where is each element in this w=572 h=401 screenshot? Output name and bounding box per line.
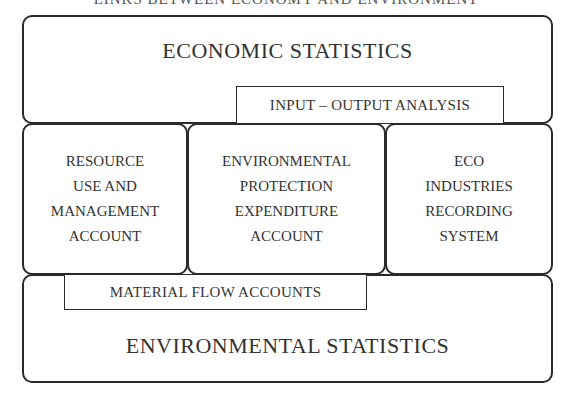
resource-use-account-box: RESOURCE USE AND MANAGEMENT ACCOUNT	[22, 123, 188, 275]
resource-use-account-label: RESOURCE USE AND MANAGEMENT ACCOUNT	[51, 149, 159, 249]
input-output-analysis-box: INPUT – OUTPUT ANALYSIS	[236, 86, 504, 124]
diagram-title-cropped: LINKS BETWEEN ECONOMY AND ENVIRONMENT	[0, 0, 572, 8]
eco-industries-recording-label: ECO INDUSTRIES RECORDING SYSTEM	[425, 149, 513, 249]
economic-statistics-label: ECONOMIC STATISTICS	[24, 33, 551, 69]
environmental-protection-expenditure-box: ENVIRONMENTAL PROTECTION EXPENDITURE ACC…	[187, 123, 386, 275]
material-flow-accounts-box: MATERIAL FLOW ACCOUNTS	[64, 274, 367, 310]
eco-industries-recording-box: ECO INDUSTRIES RECORDING SYSTEM	[385, 123, 553, 275]
environmental-protection-expenditure-label: ENVIRONMENTAL PROTECTION EXPENDITURE ACC…	[222, 149, 351, 249]
environmental-statistics-label: ENVIRONMENTAL STATISTICS	[24, 328, 551, 364]
